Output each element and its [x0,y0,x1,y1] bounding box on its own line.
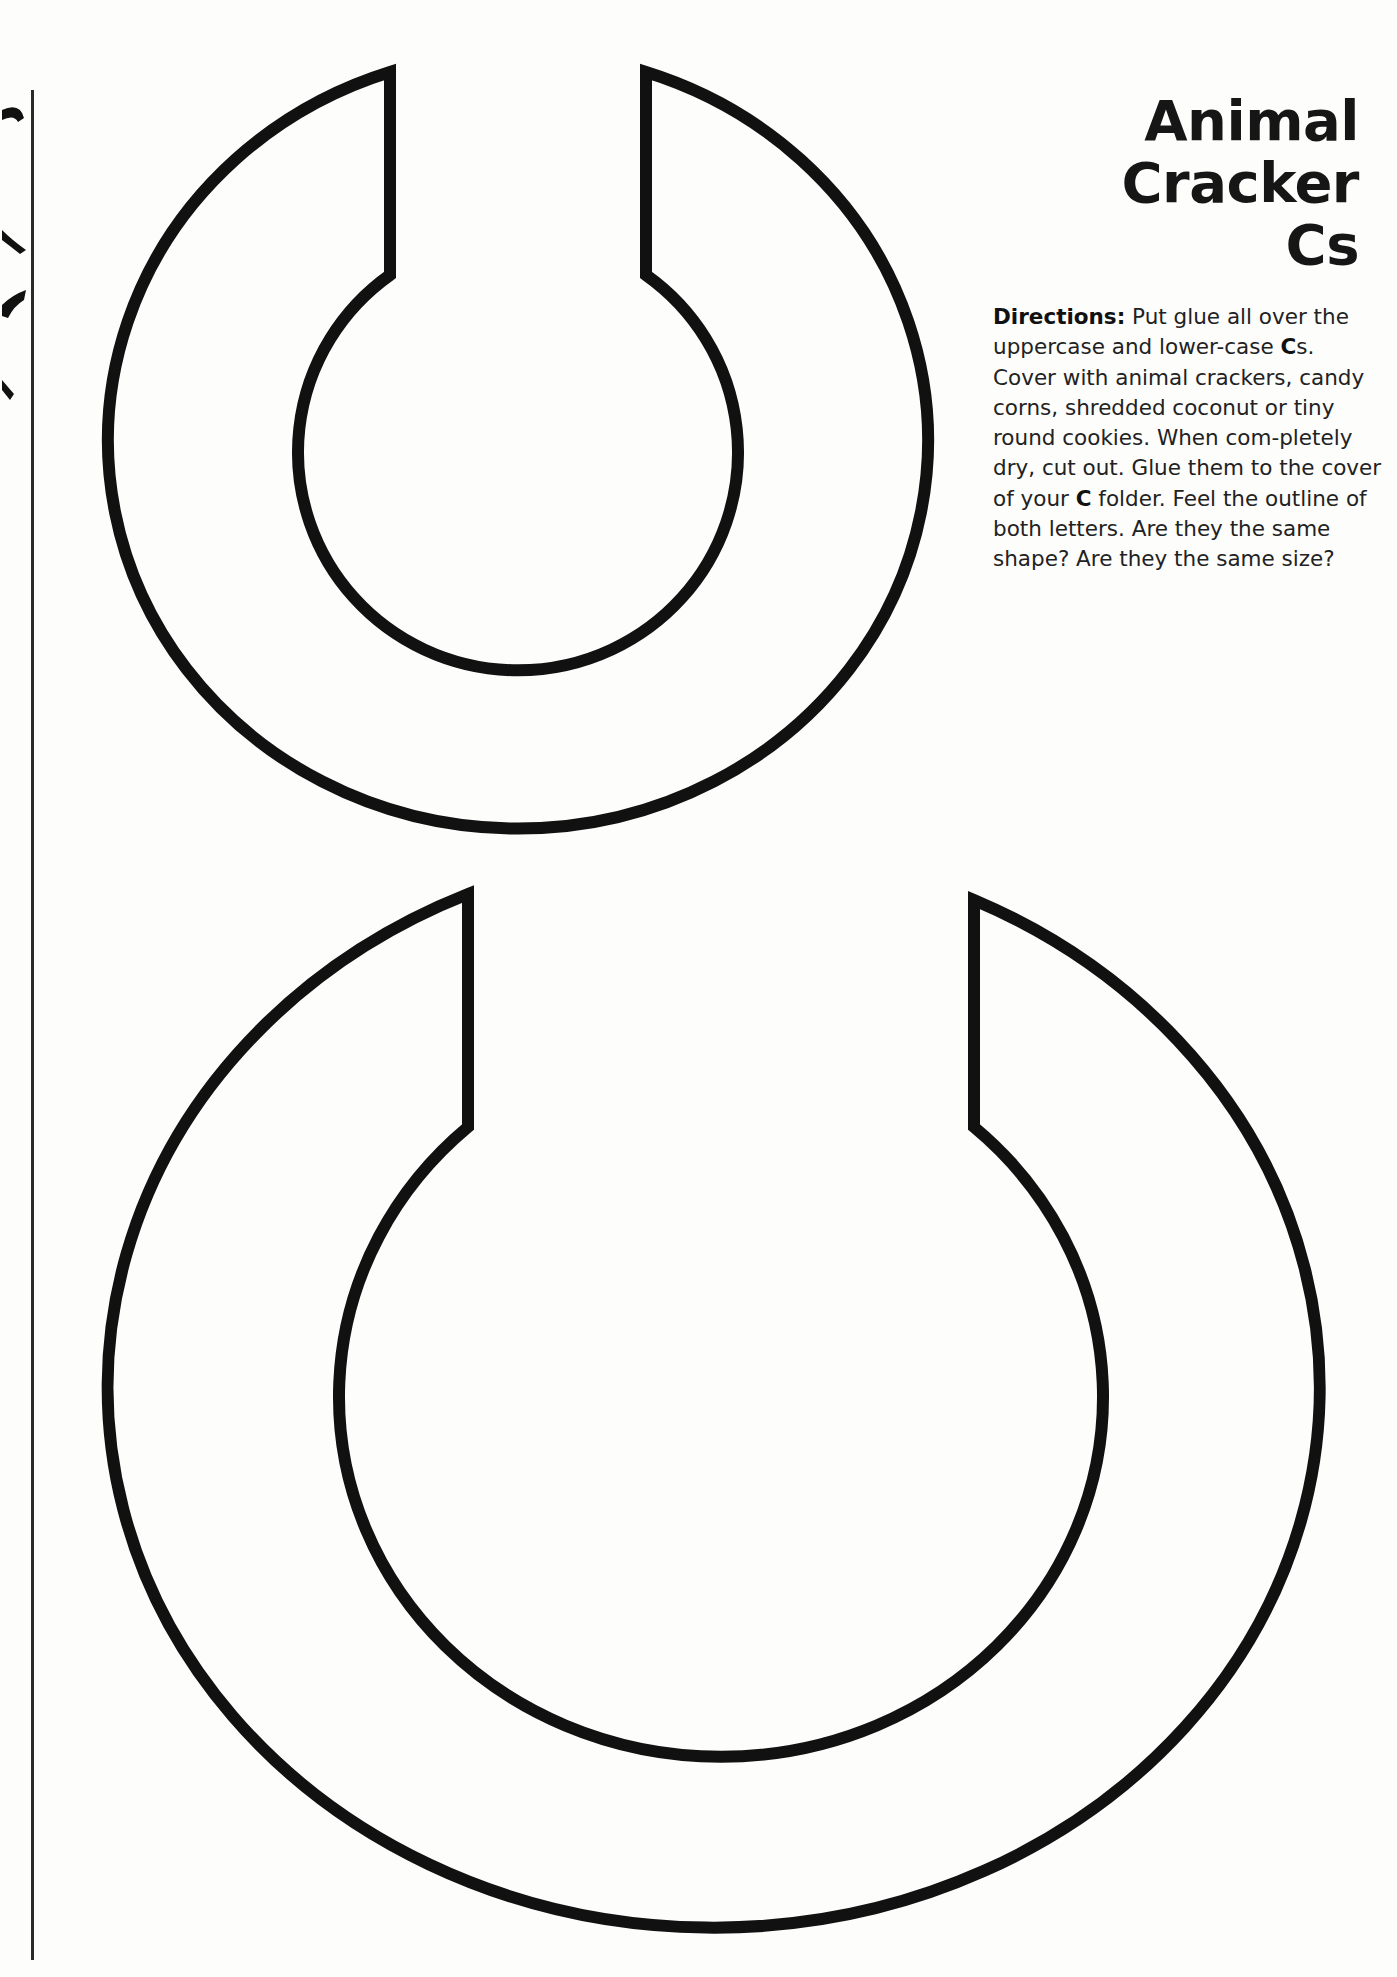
title-line-1: Animal [1121,90,1359,152]
title-line-2: Cracker [1121,152,1359,214]
letter-c-tracing-shapes [0,0,1397,1977]
page-title: Animal Cracker Cs [1121,90,1359,276]
uppercase-c-outline [108,894,1320,1928]
directions-seg-3: C [1076,486,1092,511]
lowercase-c-outline [108,72,928,829]
title-line-3: Cs [1121,214,1359,276]
directions-label: Directions: [993,304,1125,329]
directions-text: Directions: Put glue all over the upperc… [993,302,1383,575]
directions-seg-1: C [1280,334,1296,359]
directions-seg-2: s. Cover with animal crackers, candy cor… [993,334,1381,510]
